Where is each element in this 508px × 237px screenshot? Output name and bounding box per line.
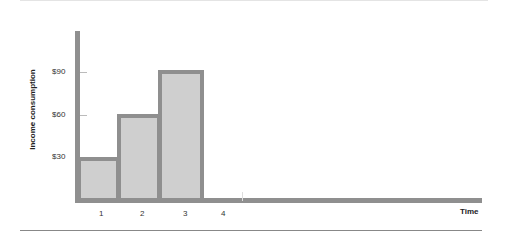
y-axis-title: Income consumption	[28, 60, 37, 160]
x-tick-mark	[242, 192, 243, 201]
x-axis	[75, 198, 482, 203]
bar-2	[117, 114, 161, 199]
x-tick-label-4: 4	[221, 209, 225, 218]
y-axis	[75, 31, 80, 203]
x-tick-label-2: 2	[140, 209, 144, 218]
y-tick-60	[80, 115, 87, 116]
top-rule	[20, 0, 488, 1]
bar-3	[158, 70, 204, 199]
bottom-rule	[20, 230, 482, 231]
y-tick-label-30: $30	[52, 152, 72, 161]
y-tick-90	[80, 72, 87, 73]
y-tick-label-90: $90	[52, 67, 72, 76]
x-tick-label-3: 3	[183, 209, 187, 218]
x-tick-label-1: 1	[99, 209, 103, 218]
y-tick-label-60: $60	[52, 110, 72, 119]
bar-1	[77, 157, 120, 199]
x-axis-title: Time	[460, 207, 479, 216]
